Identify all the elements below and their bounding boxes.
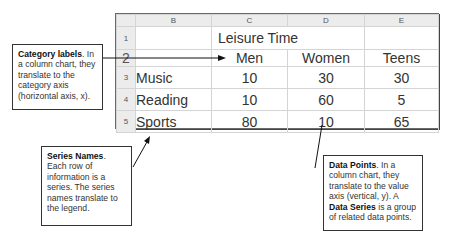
series-arrow-icon — [133, 136, 150, 167]
datapoints-line-icon — [315, 125, 322, 168]
annotation-arrows — [0, 0, 449, 246]
category-arrow-icon — [103, 55, 226, 61]
